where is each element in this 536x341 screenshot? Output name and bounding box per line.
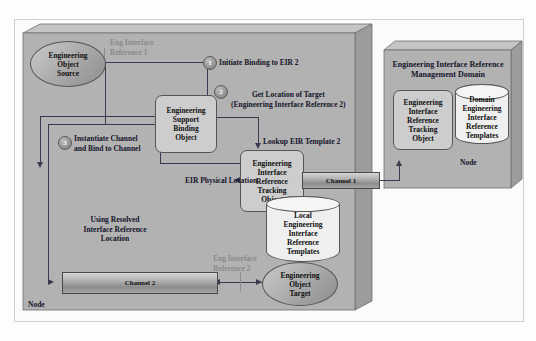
step-badge-2: 2 bbox=[214, 85, 228, 99]
step-text-3: Instantiate Channel and Bind to Channel bbox=[74, 134, 141, 153]
step-badge-3: 3 bbox=[58, 136, 72, 150]
domain-eir-templates-label: Domain Engineering Interface Reference T… bbox=[462, 89, 501, 140]
step-text-2: Get Location of Target (Engineering Inte… bbox=[231, 90, 346, 109]
arrow-to-channel2 bbox=[48, 279, 54, 285]
line-left-rail bbox=[48, 124, 49, 282]
domain-eir-templates-cylinder[interactable]: Domain Engineering Interface Reference T… bbox=[455, 84, 509, 144]
line-source-vertical bbox=[105, 62, 106, 124]
engineering-object-source-label: Engineering Object Source bbox=[48, 51, 87, 78]
arrow-channel1-to-domain-tracking bbox=[396, 160, 402, 166]
label-eir-1: Eng Interface Reference 1 bbox=[110, 38, 154, 57]
line-channel1-vertical bbox=[399, 166, 400, 181]
right-node-label: Node bbox=[460, 158, 477, 168]
tick-eir2 bbox=[240, 272, 241, 292]
arrow-left-rail-down bbox=[37, 162, 43, 168]
channel-2-label: Channel 2 bbox=[125, 279, 156, 287]
line-step1-horizontal bbox=[105, 62, 207, 63]
engineering-support-binding-object-label: Engineering Support Binding Object bbox=[166, 106, 205, 142]
line-left-rail-b bbox=[40, 116, 41, 164]
line-step3-top-b bbox=[40, 116, 160, 117]
line-physical-location-horizontal bbox=[160, 163, 250, 164]
arrow-to-tracking-object bbox=[255, 143, 261, 149]
engineering-object-target-label: Engineering Object Target bbox=[280, 271, 319, 298]
step-badge-1: 1 bbox=[203, 56, 217, 70]
step-text-1: Initiate Binding to EIR 2 bbox=[219, 58, 299, 68]
eir-tracking-object-domain-label: Engineering Interface Reference Tracking… bbox=[403, 98, 442, 143]
eir-tracking-object-domain[interactable]: Engineering Interface Reference Tracking… bbox=[393, 90, 453, 150]
right-node-title: Engineering Interface Reference Manageme… bbox=[386, 60, 510, 80]
line-lookup-vertical bbox=[258, 117, 259, 145]
local-eir-templates-cylinder[interactable]: Local Engineering Interface Reference Te… bbox=[266, 196, 340, 262]
diagram-canvas: Engineering Object Source Engineering Su… bbox=[0, 0, 536, 341]
channel-1-label: Channel 1 bbox=[326, 177, 357, 185]
local-eir-templates-label: Local Engineering Interface Reference Te… bbox=[283, 203, 322, 256]
channel-1-bar[interactable]: Channel 1 bbox=[302, 172, 380, 189]
left-node-label: Node bbox=[28, 300, 45, 310]
engineering-object-target[interactable]: Engineering Object Target bbox=[262, 262, 338, 306]
label-lookup-eir-template: Lookup EIR Template 2 bbox=[263, 137, 340, 147]
engineering-object-source[interactable]: Engineering Object Source bbox=[30, 41, 106, 87]
channel-2-bar[interactable]: Channel 2 bbox=[62, 272, 218, 294]
engineering-support-binding-object[interactable]: Engineering Support Binding Object bbox=[155, 95, 217, 153]
label-eir-2: Eng Interface Reference 2 bbox=[213, 254, 257, 273]
label-using-resolved-location: Using Resolved Interface Reference Locat… bbox=[55, 215, 175, 244]
line-step3-top bbox=[48, 124, 160, 125]
label-eir-physical-location: EIR Physical Location bbox=[185, 176, 257, 186]
